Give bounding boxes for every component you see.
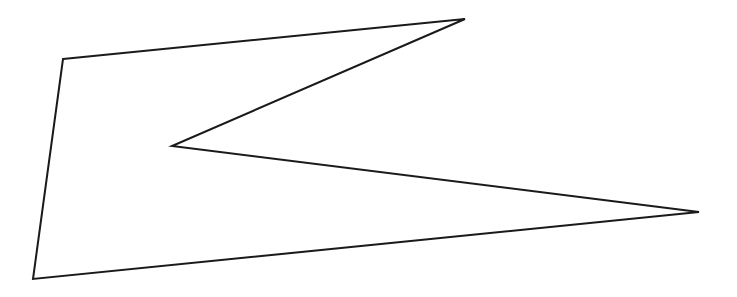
diagram-canvas	[0, 0, 737, 297]
concave-pentagon-outline	[33, 19, 699, 279]
